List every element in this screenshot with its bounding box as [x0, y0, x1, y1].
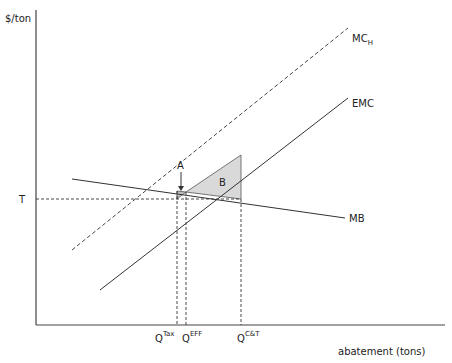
region-b: [186, 155, 241, 199]
q-eff-label: QEFF: [182, 330, 202, 344]
abatement-policy-diagram: $/ton abatement (tons) T MCH EMC MB A B …: [0, 0, 452, 363]
region-b-label: B: [219, 177, 226, 188]
mc-h-label: MCH: [352, 33, 373, 47]
q-ct-label: QC&T: [237, 330, 260, 344]
x-axis-label: abatement (tons): [338, 346, 425, 357]
mb-label: MB: [349, 213, 365, 224]
price-label: T: [18, 194, 26, 205]
emc-label: EMC: [352, 98, 374, 109]
q-tax-label: QTax: [155, 330, 174, 344]
emc-curve: [100, 98, 348, 290]
mc-h-curve: [72, 28, 348, 250]
y-axis-label: $/ton: [5, 13, 31, 24]
arrow-head-icon: [178, 186, 184, 191]
region-a-label: A: [177, 160, 184, 171]
